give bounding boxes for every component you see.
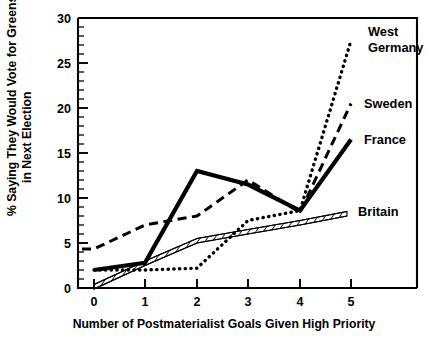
series-labels: West Germany Sweden France Britain [358, 24, 424, 219]
y-axis-tick-labels: 0 5 10 15 20 25 30 [57, 12, 71, 296]
x-tick-label-2: 2 [194, 295, 201, 309]
x-tick-label-1: 1 [142, 295, 149, 309]
chart-container: % Saying They Would Vote for Greens in N… [0, 0, 428, 339]
y-tick-label-10: 10 [57, 192, 71, 206]
x-axis-ticks [94, 279, 351, 288]
y-axis-title-line1: % Saying They Would Vote for Greens [5, 0, 19, 216]
x-tick-label-3: 3 [245, 295, 252, 309]
series-britain [94, 212, 347, 290]
series-label-west-germany-line2: Germany [368, 40, 424, 55]
y-tick-label-25: 25 [57, 57, 71, 71]
series-label-france: France [364, 132, 406, 147]
x-axis-tick-labels: 0 1 2 3 4 5 [91, 295, 355, 309]
y-axis-title-line2: in Next Election [20, 92, 34, 183]
y-tick-label-20: 20 [57, 102, 71, 116]
x-axis-title: Number of Postmaterialist Goals Given Hi… [73, 317, 376, 331]
series-label-west-germany-line1: West [368, 24, 399, 39]
x-tick-label-0: 0 [91, 295, 98, 309]
series-label-sweden: Sweden [364, 96, 413, 111]
y-tick-label-0: 0 [64, 282, 71, 296]
axes [78, 18, 417, 288]
series-label-britain: Britain [358, 204, 399, 219]
chart-svg: % Saying They Would Vote for Greens in N… [0, 0, 428, 339]
x-tick-label-4: 4 [297, 295, 304, 309]
y-tick-label-5: 5 [64, 237, 71, 251]
y-tick-label-30: 30 [57, 12, 71, 26]
series-france [94, 140, 351, 271]
x-tick-label-5: 5 [348, 295, 355, 309]
y-tick-label-15: 15 [57, 147, 71, 161]
